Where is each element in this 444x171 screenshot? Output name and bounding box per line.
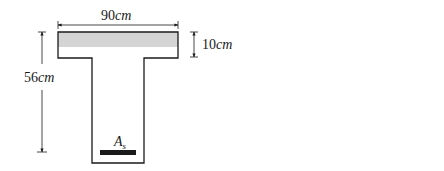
total-depth-label: 56cm — [24, 70, 54, 85]
flange-depth-label: 10cm — [202, 37, 232, 52]
steel-label: As — [113, 134, 127, 151]
t-beam-diagram: As 90cm 10cm 56cm — [0, 0, 444, 171]
flange-width-label: 90cm — [101, 8, 131, 23]
steel-bar — [100, 150, 136, 155]
compression-zone — [58, 32, 178, 47]
t-section: As 90cm 10cm 56cm — [24, 8, 232, 163]
